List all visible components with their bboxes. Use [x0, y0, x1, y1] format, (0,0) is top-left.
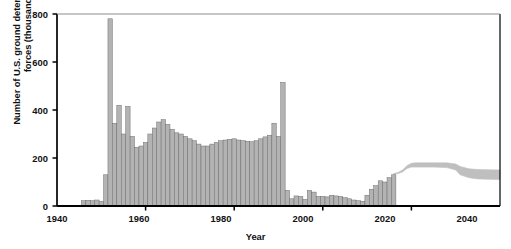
bar — [236, 140, 240, 206]
bar — [343, 198, 347, 206]
bar — [347, 199, 351, 206]
bar — [205, 146, 209, 206]
bar — [276, 136, 280, 206]
bar — [219, 141, 223, 206]
bar — [290, 199, 294, 206]
bar — [259, 139, 263, 206]
bar — [294, 196, 298, 206]
bar — [365, 195, 369, 206]
bar — [117, 105, 121, 206]
bar — [201, 146, 205, 206]
bar — [316, 196, 320, 206]
bar — [254, 141, 258, 206]
bar — [183, 136, 187, 206]
bar — [152, 128, 156, 206]
bar — [192, 141, 196, 206]
bar — [383, 182, 387, 206]
y-tick-label-600: 600 — [8, 57, 48, 68]
bar — [232, 139, 236, 206]
bar — [130, 136, 134, 206]
bar — [166, 124, 170, 206]
bar — [329, 195, 333, 206]
bar — [108, 19, 112, 206]
bar — [391, 175, 395, 206]
bar — [250, 142, 254, 206]
y-tick-label-200: 200 — [8, 153, 48, 164]
bar — [157, 122, 161, 206]
x-tick-label-2020: 2020 — [361, 213, 409, 224]
bar — [374, 186, 378, 206]
bar — [338, 196, 342, 206]
bar — [241, 141, 245, 206]
bar — [307, 190, 311, 206]
bar — [179, 134, 183, 206]
bar — [121, 134, 125, 206]
bar — [161, 120, 165, 206]
bar — [139, 146, 143, 206]
bar — [170, 129, 174, 206]
bar — [325, 197, 329, 206]
y-tick-label-400: 400 — [8, 105, 48, 116]
bar — [334, 196, 338, 206]
bar — [285, 190, 289, 206]
projection-band — [394, 163, 500, 180]
bar — [112, 123, 116, 206]
bar — [223, 140, 227, 206]
bar — [104, 175, 108, 206]
bar — [272, 123, 276, 206]
bar — [228, 139, 232, 206]
y-tick-label-0: 0 — [8, 201, 48, 212]
x-tick-label-2040: 2040 — [443, 213, 491, 224]
x-tick-label-2000: 2000 — [279, 213, 327, 224]
bar — [378, 181, 382, 206]
bar — [263, 137, 267, 206]
x-tick-label-1940: 1940 — [33, 213, 81, 224]
bar — [281, 82, 285, 206]
chart-svg — [0, 0, 511, 249]
bar — [174, 133, 178, 206]
bar — [210, 144, 214, 206]
bar — [321, 196, 325, 206]
bar — [312, 192, 316, 206]
bar — [143, 142, 147, 206]
y-tick-label-800: 800 — [8, 9, 48, 20]
bar — [245, 141, 249, 206]
bar-group — [81, 19, 396, 206]
x-tick-label-1960: 1960 — [115, 213, 163, 224]
bar — [197, 144, 201, 206]
bar — [214, 142, 218, 206]
bar — [126, 106, 130, 206]
chart-figure: Number of U.S. ground deterrence mission… — [0, 0, 511, 249]
bar — [188, 139, 192, 206]
plot-area — [0, 0, 511, 249]
bar — [387, 178, 391, 206]
bar — [298, 196, 302, 206]
bar — [267, 135, 271, 206]
x-tick-label-1980: 1980 — [197, 213, 245, 224]
bar — [369, 189, 373, 206]
bar — [148, 134, 152, 206]
bar — [135, 147, 139, 206]
